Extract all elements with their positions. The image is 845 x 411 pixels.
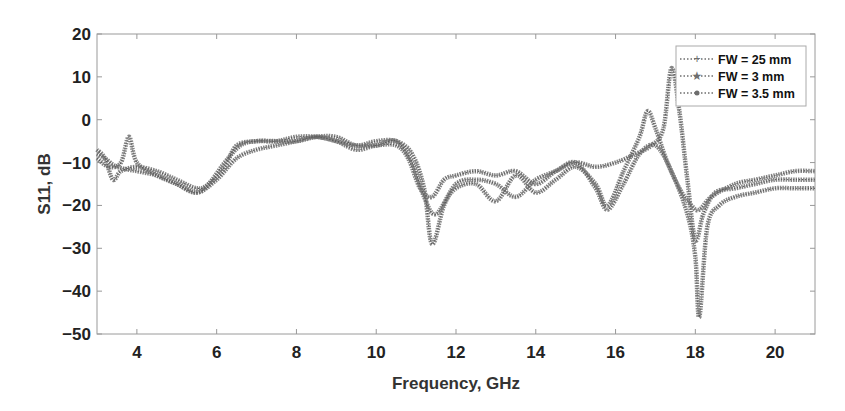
x-axis-label: Frequency, GHz	[392, 374, 520, 393]
s11-chart: 468101214161820 20100−10−20−30−40−50 Fre…	[0, 0, 845, 411]
plus-marker-icon: +	[693, 52, 700, 66]
y-tick-label: −50	[62, 325, 91, 344]
legend: + FW = 25 mm ★ FW = 3 mm FW = 3.5 mm	[676, 46, 806, 106]
svg-text:FW = 3.5 mm: FW = 3.5 mm	[718, 87, 795, 101]
legend-item-fw-3mm: ★ FW = 3 mm	[680, 69, 784, 84]
star-marker-icon: ★	[692, 69, 703, 83]
y-tick-label: −40	[62, 282, 91, 301]
y-tick-label: 20	[72, 25, 91, 44]
x-tick-label: 6	[212, 343, 221, 362]
x-tick-label: 14	[526, 343, 545, 362]
y-tick-label: −10	[62, 154, 91, 173]
y-tick-label: −20	[62, 196, 91, 215]
x-tick-label: 10	[367, 343, 386, 362]
circle-marker-icon	[695, 91, 700, 96]
y-axis-label: S11, dB	[35, 153, 54, 214]
y-tick-label: 10	[72, 68, 91, 87]
svg-text:FW = 25 mm: FW = 25 mm	[718, 53, 791, 67]
legend-item-fw-25mm: + FW = 25 mm	[680, 52, 791, 67]
y-tick-label: −30	[62, 239, 91, 258]
x-tick-label: 8	[292, 343, 301, 362]
x-tick-label: 12	[447, 343, 466, 362]
x-tick-label: 4	[132, 343, 142, 362]
svg-text:FW = 3 mm: FW = 3 mm	[718, 70, 784, 84]
x-tick-label: 18	[686, 343, 705, 362]
x-tick-label: 16	[606, 343, 625, 362]
x-tick-label: 20	[766, 343, 785, 362]
y-tick-label: 0	[82, 111, 91, 130]
